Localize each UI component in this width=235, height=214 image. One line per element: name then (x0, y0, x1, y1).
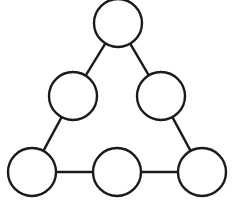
edge-middle-right-to-bottom-right (172, 117, 190, 151)
node-circle-middle-left (49, 72, 97, 120)
node-circle-bottom-left (8, 148, 56, 196)
triangle-circle-diagram (0, 0, 235, 214)
edge-middle-left-to-bottom-left (43, 117, 61, 151)
edge-top-to-middle-right (130, 44, 149, 76)
edge-top-to-middle-left (86, 43, 106, 75)
node-circle-bottom-middle (93, 148, 141, 196)
node-circle-bottom-right (178, 148, 226, 196)
node-circle-top (94, 0, 142, 47)
node-circle-middle-right (137, 72, 185, 120)
